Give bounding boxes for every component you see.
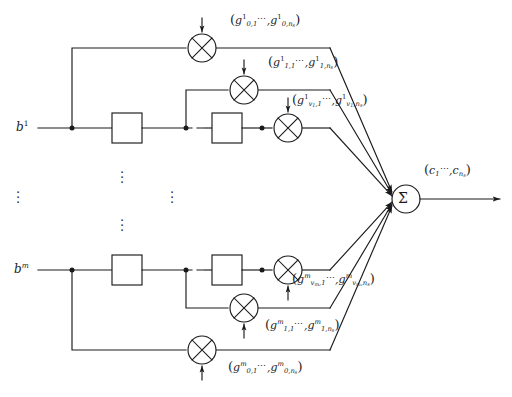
summation-symbol: Σ bbox=[398, 191, 408, 205]
vertical-ellipsis-delays-lower: ... bbox=[118, 214, 126, 229]
vertical-ellipsis-inputs: ... bbox=[14, 186, 22, 201]
gain-label-top-tap0: (g10,1⋯,g10,ns) bbox=[230, 13, 300, 28]
junction-dots bbox=[70, 126, 265, 273]
vertical-ellipsis-delays-upper: ... bbox=[118, 166, 126, 181]
gain-label-top-tapv1: (g1v1,1⋯,g1v1,ns) bbox=[292, 93, 368, 108]
signal-flow-diagram: b1 bm (g10,1⋯,g10,ns) (g11,1⋯,g11,ns) (g… bbox=[0, 0, 512, 397]
vertical-ellipsis-taps: ... bbox=[168, 186, 176, 201]
gain-label-top-tap1: (g11,1⋯,g11,ns) bbox=[268, 55, 338, 70]
input-label-b-1: b1 bbox=[16, 120, 28, 133]
gain-label-bottom-tap0: (gm0,1⋯,gm0,ns) bbox=[228, 360, 302, 375]
gain-label-bottom-tapvm: (gmvm,1⋯,gmvm,ns) bbox=[292, 272, 375, 287]
output-label: (c1⋯,cns) bbox=[424, 163, 471, 178]
multiplier-nodes bbox=[188, 34, 302, 364]
gain-label-bottom-tap1: (gm1,1⋯,gm1,ns) bbox=[265, 318, 339, 333]
input-label-b-m: bm bbox=[14, 262, 29, 275]
diagram-canvas bbox=[0, 0, 512, 397]
